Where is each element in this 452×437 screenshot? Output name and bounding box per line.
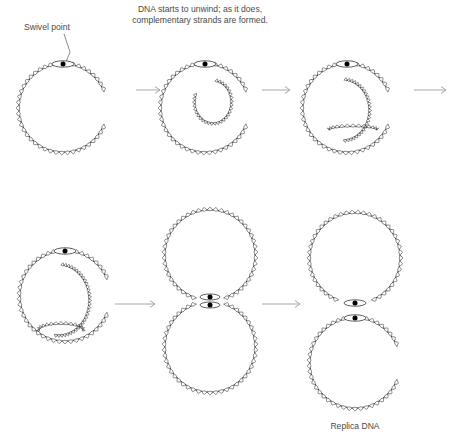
replica-dna-label: Replica DNA	[330, 421, 379, 431]
stage3-swivel-point	[336, 61, 358, 67]
arrow-stage3-to-stage4	[414, 87, 446, 94]
stage5-swivel-point-lower	[200, 302, 220, 308]
stage-6-separated-replica-dna	[307, 210, 403, 411]
stage5-swivel-point-lower-dot	[208, 303, 213, 308]
stage3-inner-loop-left	[344, 78, 372, 143]
stage-4-loop-nearly-complete	[17, 248, 108, 344]
arrow-stage4-to-stage5	[115, 301, 155, 308]
arrow-stage5-to-stage6	[262, 301, 300, 308]
stage1-swivel-point	[52, 61, 74, 67]
dna-replication-diagram: DNA starts to unwind; as it does, comple…	[0, 0, 452, 437]
stage5-swivel-point-upper-dot	[208, 295, 213, 300]
stage-2-unwinding-begins	[158, 61, 247, 155]
arrow-stage2-to-stage3	[262, 87, 290, 94]
stage3-inner-strand	[327, 124, 378, 130]
stage2-swivel-point-dot	[203, 62, 208, 67]
stage4-swivel-point	[54, 248, 76, 254]
stage-group	[16, 61, 403, 411]
stage4-inner-loop	[55, 263, 92, 338]
stage6-lower-ring-segment-0	[307, 315, 398, 411]
stage2-swivel-point	[194, 61, 216, 67]
stage1-swivel-point-dot	[61, 62, 66, 67]
stage2-inner-loop	[192, 79, 233, 126]
stage5-swivel-point-upper	[200, 294, 220, 300]
stage5-upper-ring-segment-0	[162, 207, 258, 299]
unwind-caption-line-1: DNA starts to unwind; as it does,	[138, 4, 262, 14]
stage3-swivel-point-dot	[345, 62, 350, 67]
stage1-ring-segment-0	[16, 61, 105, 155]
stage4-swivel-point-dot	[63, 249, 68, 254]
stage2-ring-segment-0	[158, 61, 247, 155]
stage6-upper-ring-segment-0	[307, 210, 403, 301]
stage-1-intact-circular-dna	[16, 61, 105, 155]
stage6-upper-swivel-point	[344, 300, 366, 306]
arrow-stage1-to-stage2	[136, 87, 160, 94]
stage-5-figure-eight-intermediate	[162, 207, 258, 395]
unwind-caption-line-2: complementary strands are formed.	[132, 15, 268, 25]
stage-3-loop-expands	[300, 61, 389, 155]
stage6-upper-swivel-point-dot	[353, 301, 358, 306]
swivel-point-leader-line	[64, 34, 70, 62]
arrow-group	[115, 87, 446, 308]
swivel-point-label: Swivel point	[24, 22, 70, 32]
stage6-lower-swivel-point-dot	[353, 316, 358, 321]
stage3-ring-segment-0	[300, 61, 389, 155]
stage6-lower-swivel-point	[344, 315, 366, 321]
stage5-lower-ring-segment-0	[162, 302, 258, 394]
